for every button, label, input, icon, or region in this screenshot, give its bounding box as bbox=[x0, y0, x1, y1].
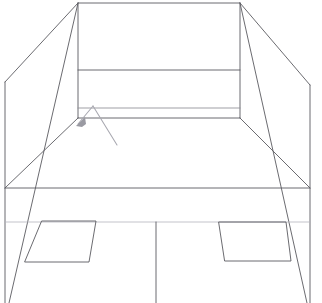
perspective-line-drawing bbox=[0, 0, 322, 303]
back-wall-fill bbox=[78, 3, 240, 118]
drawing-canvas: Monochrome perspective line drawing of a… bbox=[0, 0, 322, 303]
back-wall-group bbox=[78, 3, 240, 118]
